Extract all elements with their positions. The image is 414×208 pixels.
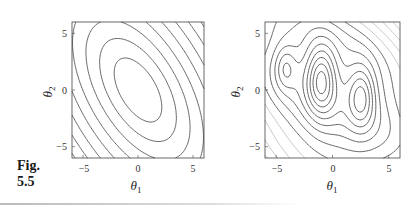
right-x-axis-label: θ1 — [327, 178, 338, 195]
left-xtick-0: 0 — [136, 163, 141, 174]
left-ytick-0: 0 — [62, 85, 67, 96]
left-ytick-neg5: −5 — [56, 141, 67, 152]
right-ytick-neg5: −5 — [249, 141, 260, 152]
left-x-axis-label: θ1 — [131, 178, 142, 195]
right-xtick-5: 5 — [387, 163, 392, 174]
right-xtick-neg5: −5 — [272, 163, 283, 174]
left-y-axis-label: θ2 — [40, 87, 57, 98]
left-contour-lines — [72, 22, 204, 158]
left-xtick-neg5: −5 — [79, 163, 90, 174]
right-contour-plot: 5 0 −5 −5 0 5 θ1 θ2 — [200, 0, 414, 200]
page-separator — [0, 203, 300, 205]
right-ytick-5: 5 — [255, 28, 260, 39]
left-ytick-5: 5 — [62, 28, 67, 39]
right-xtick-0: 0 — [331, 163, 336, 174]
left-contour-plot: 5 0 −5 −5 0 5 θ1 θ2 — [0, 0, 210, 200]
right-contour-lines — [265, 22, 400, 158]
right-ytick-0: 0 — [255, 85, 260, 96]
right-y-axis-label: θ2 — [228, 87, 245, 98]
left-xtick-5: 5 — [191, 163, 196, 174]
left-plot-frame — [72, 22, 204, 158]
